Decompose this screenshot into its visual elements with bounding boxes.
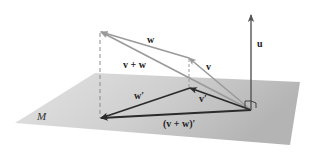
- plane-m: [15, 73, 300, 145]
- label-v-prime: v′: [199, 93, 207, 104]
- label-w-prime: w′: [134, 90, 144, 101]
- label-v: v: [206, 61, 211, 72]
- label-v-plus-w-prime: (v + w)′: [163, 118, 196, 130]
- label-plane-m: M: [36, 110, 47, 122]
- projection-diagram: w v + w v u w′ v′ (v + w)′ M: [0, 0, 316, 157]
- diagram-canvas: w v + w v u w′ v′ (v + w)′ M: [0, 0, 316, 157]
- label-u: u: [257, 38, 263, 49]
- label-w: w: [147, 34, 155, 45]
- label-v-plus-w: v + w: [123, 59, 147, 70]
